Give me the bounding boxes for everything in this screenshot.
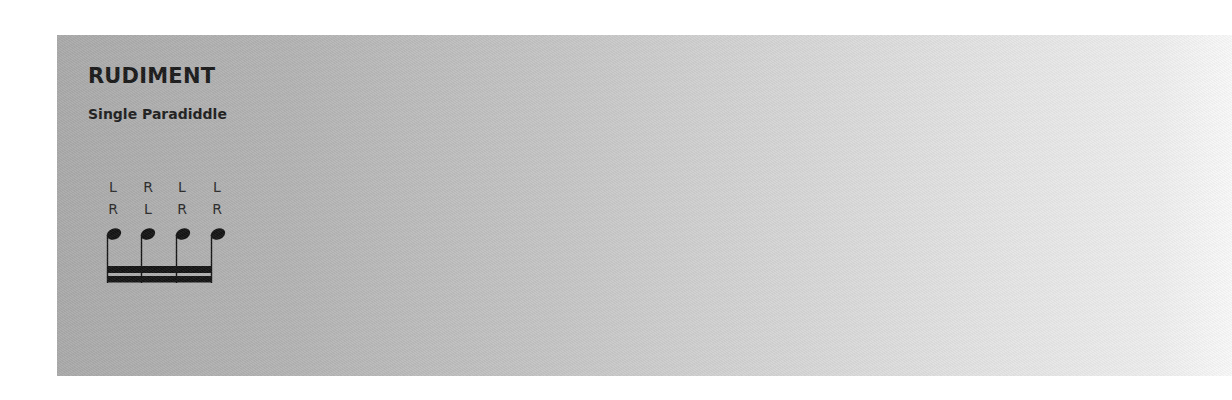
note-heads bbox=[105, 226, 227, 242]
beam-2 bbox=[107, 276, 212, 283]
rudiment-panel: RUDIMENT Single Paradiddle L R L L R L R… bbox=[57, 35, 1232, 376]
sixteenth-notes-notation bbox=[57, 35, 317, 295]
beams bbox=[107, 266, 212, 283]
note-stems bbox=[108, 235, 212, 283]
beam-1 bbox=[107, 266, 212, 273]
